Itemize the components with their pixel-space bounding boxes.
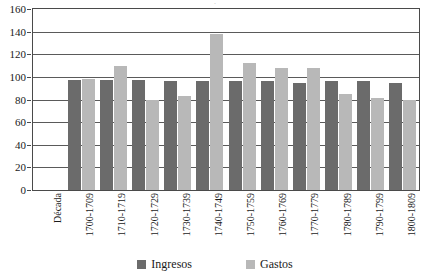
x-axis-labels: Década1700-17091710-17191720-17291730-17… [33,193,419,251]
y-tick-label: 100 [10,71,27,82]
bar-gastos [275,68,288,190]
bar-group [387,9,419,190]
bar-gastos [403,100,416,191]
bar-group [258,9,290,190]
x-tick-label: 1720-1729 [150,193,160,236]
y-axis: 020406080100120140160 [0,8,31,191]
chart-legend: Ingresos Gastos [0,256,430,272]
legend-label: Gastos [260,258,293,270]
y-tick-label: 80 [15,94,26,105]
x-tick-label: 1790-1799 [375,193,385,236]
bar-gastos [114,66,127,190]
x-tick-label: Década [53,193,63,223]
bar-group [323,9,355,190]
y-tick-label: 140 [10,26,27,37]
y-tick-mark [27,54,31,55]
legend-swatch-icon [246,260,255,269]
bar-ingresos [164,81,177,190]
y-tick-label: 40 [15,139,26,150]
bar-ingresos [293,83,306,190]
bar-ingresos [389,83,402,190]
x-tick-label: 1770-1779 [310,193,320,236]
x-tick-label: 1730-1739 [182,193,192,236]
bars-layer [33,9,419,190]
chart-title-cropped: · [0,0,430,6]
y-tick-mark [27,145,31,146]
y-tick-mark [27,9,31,10]
legend-item-ingresos: Ingresos [137,258,192,270]
y-tick-label: 20 [15,162,26,173]
legend-item-gastos: Gastos [246,258,293,270]
bar-ingresos [196,81,209,190]
bar-ingresos [357,81,370,190]
x-tick-label: 1740-1749 [214,193,224,236]
bar-gastos [339,94,352,190]
bar-ingresos [325,81,338,190]
legend-label: Ingresos [151,258,192,270]
bar-group [194,9,226,190]
bar-group [290,9,322,190]
bar-group [33,9,65,190]
x-tick-label: 1750-1759 [246,193,256,236]
x-tick-label: 1700-1709 [85,193,95,236]
y-tick-mark [27,32,31,33]
x-tick-label: 1780-1789 [343,193,353,236]
y-tick-mark [27,190,31,191]
bar-gastos [178,96,191,190]
bar-chart: · 020406080100120140160 Década1700-17091… [0,0,430,278]
bar-group [355,9,387,190]
y-tick-label: 0 [21,185,27,196]
y-tick-mark [27,167,31,168]
bar-gastos [307,68,320,190]
bar-gastos [371,98,384,190]
bar-ingresos [100,80,113,190]
bar-gastos [210,34,223,190]
y-tick-mark [27,122,31,123]
y-tick-label: 60 [15,117,26,128]
bar-group [65,9,97,190]
bar-group [162,9,194,190]
bar-group [226,9,258,190]
x-tick-label: 1760-1769 [278,193,288,236]
bar-gastos [146,100,159,191]
y-tick-label: 160 [10,4,27,15]
x-tick-label: 1710-1719 [117,193,127,236]
bar-ingresos [261,81,274,190]
bar-group [97,9,129,190]
y-tick-mark [27,100,31,101]
bar-group [130,9,162,190]
bar-ingresos [68,80,81,190]
bar-gastos [82,79,95,190]
x-tick-label: 1800-1809 [407,193,417,236]
bar-ingresos [229,81,242,190]
legend-swatch-icon [137,260,146,269]
y-tick-label: 120 [10,49,27,60]
bar-gastos [243,63,256,190]
y-tick-mark [27,77,31,78]
bar-ingresos [132,80,145,190]
